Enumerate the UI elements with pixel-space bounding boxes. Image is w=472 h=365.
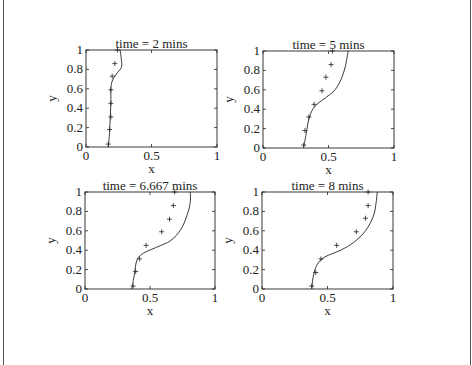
plus-marker (354, 229, 359, 234)
y-tick-label: 0.2 (244, 121, 260, 136)
y-axis-label: y (220, 237, 235, 244)
subplot-title: time = 8 mins (292, 178, 364, 193)
subplot-4: 00.20.40.60.8100.51time = 8 minsxy (220, 178, 396, 318)
y-tick-label: 0.4 (67, 100, 84, 115)
plus-marker (106, 142, 111, 147)
y-axis-label: y (221, 96, 236, 103)
x-tick-label: 0 (260, 149, 267, 164)
y-tick-label: 1 (77, 42, 84, 57)
axes-box (85, 192, 215, 289)
plus-marker (167, 217, 172, 222)
plus-marker (108, 101, 113, 106)
x-axis-label: x (148, 161, 155, 176)
y-tick-label: 0.4 (244, 101, 261, 116)
x-tick-label: 0 (259, 290, 266, 305)
subplot-3: 00.20.40.60.8100.51time = 6.667 minsxy (43, 178, 218, 318)
y-tick-label: 1 (253, 184, 260, 199)
axes-box (262, 192, 393, 289)
plus-marker (363, 216, 368, 221)
plus-marker (137, 256, 142, 261)
plus-marker (318, 256, 323, 261)
figure-canvas: 00.20.40.60.8100.51time = 2 minsxy00.20.… (0, 0, 472, 365)
plus-marker (334, 243, 339, 248)
plus-marker (171, 203, 176, 208)
y-tick-label: 1 (76, 184, 83, 199)
plus-marker (366, 203, 371, 208)
subplot-2: 00.20.40.60.8100.51time = 5 minsxy (221, 37, 397, 177)
x-axis-label: x (147, 303, 154, 318)
axes-box (263, 51, 394, 148)
subplot-1: 00.20.40.60.8100.51time = 2 minsxy (44, 36, 220, 176)
plus-marker (329, 62, 334, 67)
y-tick-label: 0.4 (66, 242, 83, 257)
y-tick-label: 0.8 (67, 61, 83, 76)
x-tick-label: 1 (390, 290, 397, 305)
plus-marker (366, 190, 371, 195)
plus-marker (107, 127, 112, 132)
y-tick-label: 0.8 (243, 203, 259, 218)
y-tick-label: 0.4 (243, 242, 260, 257)
y-tick-label: 0.2 (243, 262, 259, 277)
axes-box (86, 50, 217, 147)
x-tick-label: 1 (391, 149, 398, 164)
plus-marker (309, 284, 314, 289)
plus-marker (301, 143, 306, 148)
model-curve (304, 51, 349, 148)
plus-marker (133, 269, 138, 274)
subplot-title: time = 6.667 mins (103, 178, 198, 193)
y-tick-label: 0.8 (66, 203, 82, 218)
plus-marker (159, 229, 164, 234)
y-tick-label: 0.8 (244, 62, 260, 77)
x-axis-label: x (325, 162, 332, 177)
x-tick-label: 1 (212, 290, 219, 305)
y-tick-label: 0.2 (67, 120, 83, 135)
y-tick-label: 0.6 (66, 223, 83, 238)
y-tick-label: 0.2 (66, 262, 82, 277)
subplot-title: time = 5 mins (293, 37, 365, 52)
plus-marker (323, 75, 328, 80)
x-axis-label: x (324, 303, 331, 318)
model-curve (132, 192, 191, 289)
y-tick-label: 1 (254, 43, 261, 58)
subplot-title: time = 2 mins (116, 36, 188, 51)
y-axis-label: y (44, 95, 59, 102)
plus-marker (112, 61, 117, 66)
y-tick-label: 0.6 (67, 81, 84, 96)
plus-marker (131, 284, 136, 289)
x-tick-label: 0 (82, 290, 89, 305)
y-axis-label: y (43, 237, 58, 244)
plus-marker (306, 114, 311, 119)
x-tick-label: 1 (214, 148, 221, 163)
plus-marker (144, 243, 149, 248)
plus-marker (108, 114, 113, 119)
y-tick-label: 0.6 (244, 82, 261, 97)
model-curve (312, 192, 378, 289)
x-tick-label: 0 (83, 148, 90, 163)
plus-marker (319, 88, 324, 93)
y-tick-label: 0.6 (243, 223, 260, 238)
plus-marker (312, 102, 317, 107)
plus-marker (108, 87, 113, 92)
